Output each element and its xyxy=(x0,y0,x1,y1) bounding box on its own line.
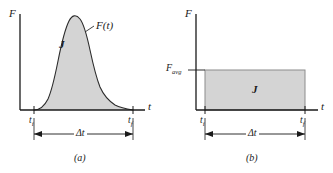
curve-leader-line-a xyxy=(85,26,94,32)
tick-label-ti-b: ti xyxy=(200,116,205,128)
dim-arrow-left-b xyxy=(205,131,213,137)
impulse-area-label-b: J xyxy=(252,84,258,95)
dim-arrow-left-a xyxy=(34,131,42,137)
impulse-area-label-a: J xyxy=(59,39,65,50)
curve-label-ft: F(t) xyxy=(96,20,113,31)
dimension-label-delta-t-b: Δt xyxy=(246,128,259,138)
panel-a-graphic xyxy=(0,0,166,173)
dim-arrow-right-b xyxy=(297,131,305,137)
impulse-figure: F t F(t) J ti tf Δt (a) xyxy=(0,0,333,173)
y-axis-label-b: F xyxy=(185,8,192,19)
x-axis-label-a: t xyxy=(148,101,151,112)
panel-b-graphic xyxy=(166,0,333,173)
y-axis-label-a: F xyxy=(9,8,16,19)
caption-b: (b) xyxy=(246,152,258,163)
tick-label-tf-a: tf xyxy=(128,116,133,128)
x-axis-label-b: t xyxy=(321,101,324,112)
dim-arrow-right-a xyxy=(125,131,133,137)
caption-a: (a) xyxy=(74,152,86,163)
panel-a: F t F(t) J ti tf Δt (a) xyxy=(0,0,166,173)
tick-label-ti-a: ti xyxy=(29,116,34,128)
tick-label-tf-b: tf xyxy=(300,116,305,128)
panel-b: F t Favg J ti tf Δt (b) xyxy=(166,0,333,173)
favg-level-label: Favg xyxy=(166,63,182,76)
dimension-label-delta-t-a: Δt xyxy=(74,128,87,138)
